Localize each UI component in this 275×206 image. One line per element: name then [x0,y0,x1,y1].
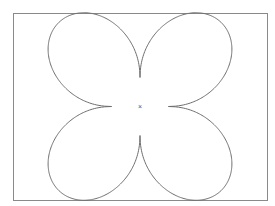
diagram-canvas: × [0,0,275,206]
center-marker: × [138,103,142,110]
